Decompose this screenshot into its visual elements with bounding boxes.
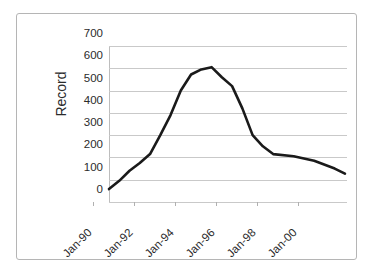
- y-gridline: [109, 202, 347, 203]
- chart-screenshot: Record 0100200300400500600700 Jan-90Jan-…: [0, 0, 376, 276]
- x-axis-tick: [175, 202, 176, 206]
- plot-area: [109, 46, 347, 202]
- y-axis-tick-label: 500: [84, 72, 103, 84]
- y-axis-tick-label: 700: [84, 27, 103, 39]
- y-gridline: [109, 68, 347, 69]
- y-gridline: [109, 113, 347, 114]
- y-axis-tick-label: 400: [84, 94, 103, 106]
- x-axis-tick: [216, 202, 217, 206]
- x-axis-tick: [134, 202, 135, 206]
- chart-frame: Record 0100200300400500600700 Jan-90Jan-…: [16, 13, 357, 260]
- x-axis-tick-label: Jan-98: [225, 226, 258, 259]
- x-axis-tick: [257, 202, 258, 206]
- y-gridline: [109, 180, 347, 181]
- y-axis-tick-label: 200: [84, 138, 103, 150]
- x-axis-tick: [298, 202, 299, 206]
- y-gridline: [109, 91, 347, 92]
- x-axis-tick-label: Jan-92: [102, 226, 135, 259]
- y-axis-title: Record: [53, 46, 69, 142]
- x-axis-tick-label: Jan-94: [143, 226, 176, 259]
- y-axis-tick-label: 0: [97, 183, 103, 195]
- x-axis-tick: [93, 202, 94, 206]
- y-gridline: [109, 46, 347, 47]
- y-axis-tick-label: 100: [84, 161, 103, 173]
- x-axis-tick-label: Jan-00: [266, 226, 299, 259]
- y-gridline: [109, 157, 347, 158]
- x-axis-tick-label: Jan-96: [184, 226, 217, 259]
- y-axis-tick-label: 600: [84, 49, 103, 61]
- y-axis-tick-label: 300: [84, 116, 103, 128]
- y-gridline: [109, 135, 347, 136]
